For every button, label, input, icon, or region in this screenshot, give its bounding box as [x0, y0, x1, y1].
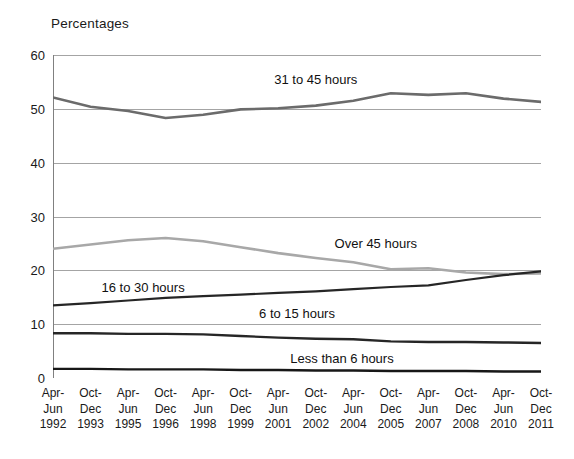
x-tick-label-line: Apr- [115, 386, 142, 402]
x-tick-label-line: Jun [115, 402, 142, 418]
y-tick-label: 60 [31, 48, 45, 63]
series-line [53, 238, 541, 274]
x-tick-label-line: Oct- [528, 386, 554, 402]
y-tick-label: 50 [31, 101, 45, 116]
x-tick-label-line: Apr- [490, 386, 517, 402]
y-axis-tick-labels: 0102030405060 [0, 55, 45, 378]
series-line [53, 369, 541, 372]
x-tick-label-line: Oct- [77, 386, 104, 402]
x-tick-label: Oct-Dec2011 [528, 386, 554, 433]
y-tick-label: 40 [31, 155, 45, 170]
x-tick-label-line: 1996 [152, 417, 179, 433]
x-tick-label-line: 1998 [190, 417, 217, 433]
x-tick-label: Apr-Jun2004 [340, 386, 367, 433]
line-chart: Percentages 0102030405060 31 to 45 hours… [0, 0, 574, 459]
x-tick-label-line: 2005 [377, 417, 404, 433]
x-tick-label: Apr-Jun2001 [265, 386, 292, 433]
y-tick-label: 10 [31, 317, 45, 332]
x-tick-label: Apr-Jun1992 [40, 386, 67, 433]
series-label: 6 to 15 hours [257, 306, 337, 321]
y-tick-label: 20 [31, 263, 45, 278]
x-tick-label-line: Jun [265, 402, 292, 418]
x-tick-label-line: Dec [377, 402, 404, 418]
x-tick-label: Oct-Dec1993 [77, 386, 104, 433]
series-label: 31 to 45 hours [272, 71, 359, 86]
x-tick-label-line: 2007 [415, 417, 442, 433]
x-tick-label-line: Dec [453, 402, 480, 418]
x-tick-label-line: Dec [227, 402, 254, 418]
x-tick-label-line: 2001 [265, 417, 292, 433]
x-tick-label-line: 2011 [528, 417, 554, 433]
x-tick-label-line: Apr- [265, 386, 292, 402]
x-tick-label-line: Oct- [302, 386, 329, 402]
x-tick-label: Apr-Jun1998 [190, 386, 217, 433]
x-tick-label-line: Apr- [340, 386, 367, 402]
x-tick-label-line: Apr- [40, 386, 67, 402]
x-tick-label-line: 1992 [40, 417, 67, 433]
x-tick-label-line: Dec [528, 402, 554, 418]
series-line [53, 333, 541, 343]
x-tick-label: Oct-Dec1999 [227, 386, 254, 433]
x-tick-label-line: Dec [77, 402, 104, 418]
series-label: Over 45 hours [333, 236, 419, 251]
x-tick-label-line: 2002 [302, 417, 329, 433]
x-tick-label-line: Jun [340, 402, 367, 418]
x-tick-label: Apr-Jun2010 [490, 386, 517, 433]
plot-svg [53, 55, 541, 378]
x-tick-label: Apr-Jun1995 [115, 386, 142, 433]
x-tick-label-line: 2004 [340, 417, 367, 433]
x-tick-label-line: Apr- [415, 386, 442, 402]
x-tick-label-line: Oct- [227, 386, 254, 402]
series-label: 16 to 30 hours [100, 280, 187, 295]
x-tick-label-line: Oct- [453, 386, 480, 402]
x-axis-tick-labels: Apr-Jun1992Oct-Dec1993Apr-Jun1995Oct-Dec… [53, 386, 541, 446]
x-tick-label: Oct-Dec2005 [377, 386, 404, 433]
x-tick-label-line: 2008 [453, 417, 480, 433]
x-tick-label: Oct-Dec1996 [152, 386, 179, 433]
x-tick-label-line: 1999 [227, 417, 254, 433]
x-tick-label-line: 2010 [490, 417, 517, 433]
x-tick-label-line: Dec [152, 402, 179, 418]
x-tick-label-line: Oct- [152, 386, 179, 402]
x-tick-label-line: Jun [190, 402, 217, 418]
y-tick-label: 0 [38, 371, 45, 386]
series-label: Less than 6 hours [288, 350, 395, 365]
x-tick-label: Oct-Dec2008 [453, 386, 480, 433]
series-line [53, 93, 541, 118]
x-tick-label: Apr-Jun2007 [415, 386, 442, 433]
x-tick-label: Oct-Dec2002 [302, 386, 329, 433]
chart-title: Percentages [51, 16, 129, 31]
x-tick-label-line: Dec [302, 402, 329, 418]
x-tick-label-line: Jun [490, 402, 517, 418]
y-tick-label: 30 [31, 209, 45, 224]
x-tick-label-line: 1995 [115, 417, 142, 433]
x-tick-label-line: Oct- [377, 386, 404, 402]
x-tick-label-line: 1993 [77, 417, 104, 433]
plot-area: 31 to 45 hoursOver 45 hours16 to 30 hour… [53, 55, 541, 378]
x-tick-label-line: Jun [40, 402, 67, 418]
x-tick-label-line: Apr- [190, 386, 217, 402]
x-tick-label-line: Jun [415, 402, 442, 418]
